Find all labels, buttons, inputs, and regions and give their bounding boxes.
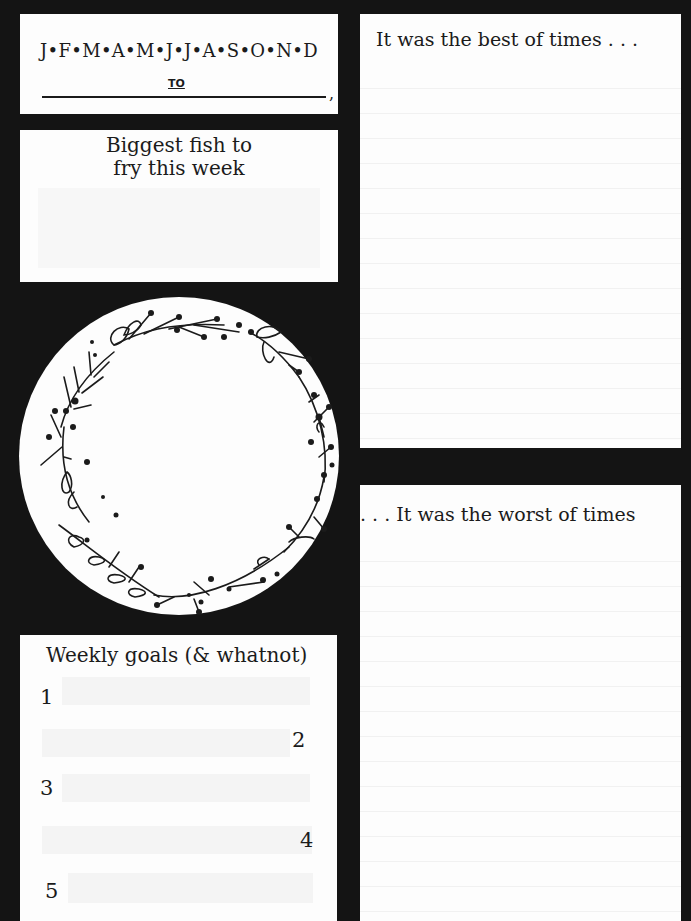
goal-input-5[interactable] [68, 873, 313, 903]
date-comma: , [329, 84, 334, 103]
floral-wreath-icon [19, 297, 339, 615]
goal-number-1: 1 [40, 685, 53, 709]
date-range-panel: J•F•M•A•M•J•J•A•S•O•N•D TO , [20, 14, 338, 114]
goal-number-3: 3 [40, 776, 53, 800]
biggest-fish-write-area[interactable] [38, 188, 320, 268]
goal-input-1[interactable] [62, 677, 310, 705]
worst-of-times-lined-area[interactable] [360, 537, 681, 921]
goal-input-4[interactable] [42, 826, 312, 854]
biggest-fish-title-line1: Biggest fish to [20, 134, 338, 157]
goal-number-4: 4 [300, 828, 313, 852]
weekly-goals-title: Weekly goals (& whatnot) [46, 643, 307, 667]
biggest-fish-title: Biggest fish to fry this week [20, 134, 338, 180]
goal-input-2[interactable] [42, 729, 290, 757]
date-write-line[interactable] [42, 96, 326, 98]
goal-number-2: 2 [292, 728, 305, 752]
goal-number-5: 5 [45, 879, 58, 903]
weekly-goals-panel: Weekly goals (& whatnot) 1 2 3 4 5 [20, 635, 337, 921]
best-of-times-lined-area[interactable] [360, 64, 681, 448]
biggest-fish-title-line2: fry this week [20, 157, 338, 180]
to-label: TO [168, 77, 185, 90]
months-header: J•F•M•A•M•J•J•A•S•O•N•D [20, 40, 338, 61]
worst-of-times-title: . . . It was the worst of times [360, 503, 635, 525]
best-of-times-title: It was the best of times . . . [376, 28, 638, 50]
best-of-times-panel: It was the best of times . . . [360, 14, 681, 448]
biggest-fish-panel: Biggest fish to fry this week [20, 130, 338, 282]
worst-of-times-panel: . . . It was the worst of times [360, 485, 681, 921]
goal-input-3[interactable] [62, 774, 310, 802]
